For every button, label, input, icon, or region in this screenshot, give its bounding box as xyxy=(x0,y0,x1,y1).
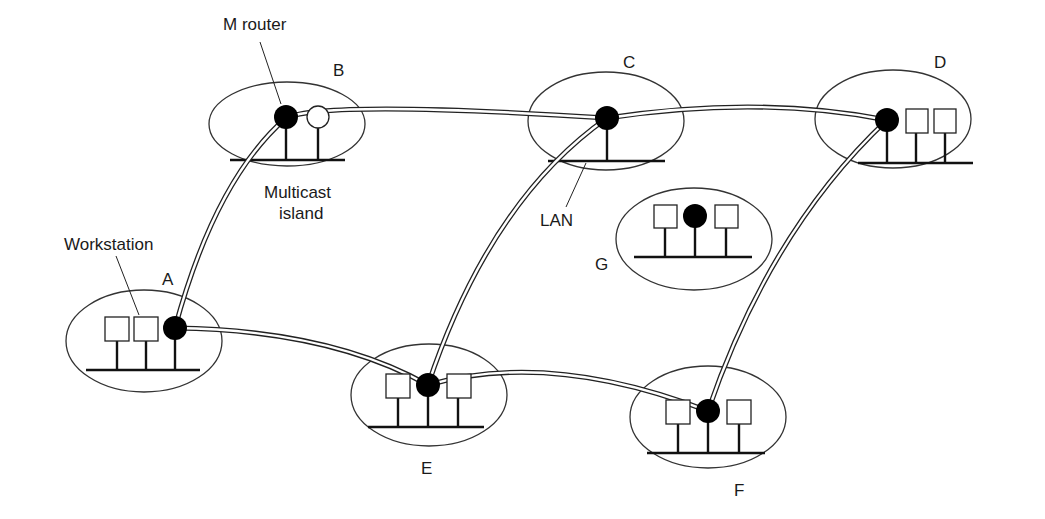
workstation-icon xyxy=(447,374,471,398)
island-label-b: B xyxy=(333,61,344,80)
lan-leader xyxy=(566,163,586,207)
multicast-router-icon xyxy=(163,316,187,340)
multicast-router-icon xyxy=(274,105,298,129)
workstation-icon xyxy=(715,205,738,228)
mbone-diagram: M router Multicast island Workstation LA… xyxy=(0,0,1045,519)
island-label-a: A xyxy=(162,270,174,289)
workstation-icon xyxy=(654,205,677,228)
multicast-island-label-2: island xyxy=(279,204,323,223)
workstation-icon xyxy=(906,109,928,133)
island-label-f: F xyxy=(734,481,744,500)
routers xyxy=(163,105,899,423)
workstation-icon xyxy=(134,317,158,341)
m-router-leader xyxy=(260,42,281,104)
island-label-d: D xyxy=(934,53,946,72)
workstations xyxy=(105,109,956,424)
lan-label: LAN xyxy=(540,211,573,230)
multicast-island-label-1: Multicast xyxy=(264,183,331,202)
multicast-router-icon xyxy=(595,106,619,130)
workstation-icon xyxy=(666,400,690,424)
workstation-icon xyxy=(727,400,751,424)
multicast-router-icon xyxy=(416,373,440,397)
workstation-label: Workstation xyxy=(64,235,153,254)
tunnels xyxy=(175,107,887,411)
workstation-icon xyxy=(105,317,129,341)
workstation-leader xyxy=(116,256,139,315)
workstation-icon xyxy=(934,109,956,133)
multicast-router-icon xyxy=(875,108,899,132)
multicast-router-icon xyxy=(683,204,707,228)
workstation-icon xyxy=(386,374,410,398)
m-router-label: M router xyxy=(223,15,287,34)
island-label-c: C xyxy=(623,53,635,72)
multicast-router-icon xyxy=(696,399,720,423)
island-label-e: E xyxy=(421,459,432,478)
unicast-router-icon xyxy=(307,106,329,128)
island-label-g: G xyxy=(595,255,608,274)
